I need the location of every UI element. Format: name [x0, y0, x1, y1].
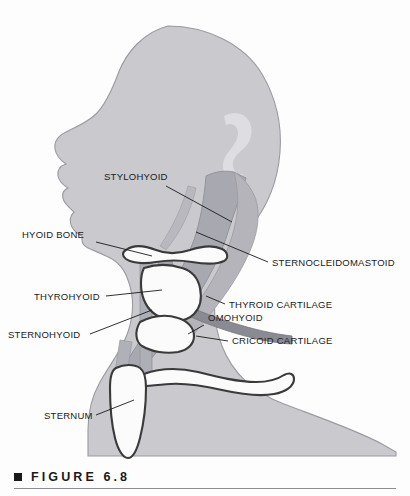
figure-caption-bar: FIGURE 6.8 — [0, 462, 410, 496]
label-omohyoid: OMOHYOID — [208, 312, 263, 323]
label-cricoid-cartilage: CRICOID CARTILAGE — [232, 335, 333, 346]
filled-square-icon — [14, 473, 22, 481]
anatomy-diagram: STYLOHYOID HYOID BONE THYROHYOID STERNOH… — [0, 0, 410, 496]
caption-divider — [14, 488, 396, 490]
label-thyrohyoid: THYROHYOID — [34, 291, 100, 302]
figure-caption-text: FIGURE 6.8 — [31, 470, 130, 484]
label-sternum: STERNUM — [44, 410, 93, 421]
label-hyoid-bone: HYOID BONE — [22, 229, 84, 240]
label-sternohyoid: STERNOHYOID — [8, 329, 80, 340]
label-thyroid-cartilage: THYROID CARTILAGE — [229, 299, 332, 310]
cricoid-cartilage — [136, 316, 194, 353]
figure-container: STYLOHYOID HYOID BONE THYROHYOID STERNOH… — [0, 0, 410, 496]
figure-caption: FIGURE 6.8 — [14, 470, 130, 484]
label-stylohyoid: STYLOHYOID — [104, 171, 168, 182]
label-sternocleidomastoid: STERNOCLEIDOMASTOID — [272, 257, 395, 268]
